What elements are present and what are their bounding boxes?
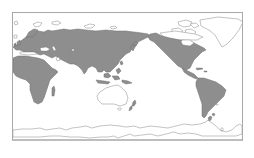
map-canvas [0,0,254,158]
world-map [0,0,254,158]
tasmania [118,108,121,110]
